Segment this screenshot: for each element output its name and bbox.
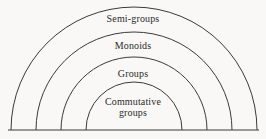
diagram-canvas — [0, 0, 266, 139]
arc-commutative-groups — [86, 82, 182, 130]
semigroup-hierarchy-figure: Semi-groups Monoids Groups Commutative g… — [0, 0, 266, 139]
arc-groups — [61, 57, 207, 130]
arc-semi-groups — [11, 7, 257, 130]
arc-monoids — [36, 32, 232, 130]
arc-group — [11, 7, 257, 130]
